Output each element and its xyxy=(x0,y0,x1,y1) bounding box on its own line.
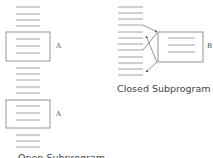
call-arrow-1 xyxy=(143,25,157,32)
label-b: B xyxy=(207,43,212,50)
subprogram-diagram: A A B Closed Subprogram Open Subprogram xyxy=(0,0,213,158)
label-a-top: A xyxy=(56,43,61,50)
caption-closed-subprogram: Closed Subprogram xyxy=(117,84,211,94)
label-a-bottom: A xyxy=(56,111,61,118)
closed-subprogram-instructions xyxy=(118,7,203,75)
diagram-graphic xyxy=(0,0,213,158)
subprogram-b-box xyxy=(158,32,203,62)
caption-open-subprogram: Open Subprogram xyxy=(18,153,105,158)
call-arrow-2 xyxy=(143,33,157,50)
call-return-arrows xyxy=(143,25,157,72)
return-arrow-2 xyxy=(146,62,157,72)
open-subprogram-instructions xyxy=(6,7,50,147)
subprogram-a-box-bottom xyxy=(6,100,50,128)
subprogram-a-box-top xyxy=(6,32,50,61)
